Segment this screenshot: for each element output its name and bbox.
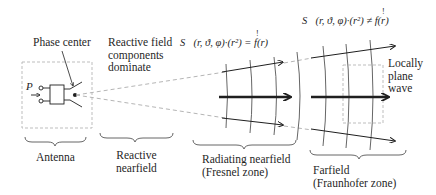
brace-radiating-nearfield bbox=[193, 140, 296, 149]
nearfield-formula: S⃗(r, ϑ, φ)·(r²) = f(r) bbox=[180, 37, 268, 48]
brace-farfield bbox=[310, 150, 406, 159]
farfield-formula: S⃗(r, ϑ, φ)·(r²) ≠ f(r) bbox=[302, 15, 389, 26]
cone-lower-dashed bbox=[76, 95, 225, 118]
cone-upper-dashed bbox=[76, 72, 225, 95]
reactive-components-label: Reactive field components dominate bbox=[108, 36, 172, 74]
region-label-reactive-nearfield: Reactive nearfield bbox=[116, 149, 157, 174]
antenna-body bbox=[50, 85, 64, 104]
locally-plane-wave-label: Locally plane wave bbox=[388, 57, 423, 95]
region-label-antenna: Antenna bbox=[36, 151, 75, 164]
region-label-radiating-nearfield: Radiating nearfield (Fresnel zone) bbox=[202, 153, 290, 178]
farfield-wavefronts bbox=[323, 40, 373, 150]
horn-lower bbox=[64, 100, 82, 107]
brace-reactive-nearfield bbox=[100, 133, 173, 142]
nearfield-formula-mark: ! bbox=[256, 29, 259, 38]
region-label-farfield: Farfield (Fraunhofer zone) bbox=[313, 164, 396, 189]
nearfield-upper-arrow bbox=[222, 62, 283, 72]
antenna-symbol bbox=[31, 82, 82, 107]
phase-center-pointer bbox=[62, 51, 73, 86]
farfield-formula-mark: ! bbox=[382, 7, 385, 16]
port-label: P bbox=[26, 80, 33, 92]
feed-terminal-top bbox=[39, 86, 43, 90]
nearfield-lower-arrow bbox=[222, 118, 283, 125]
brace-antenna bbox=[25, 137, 86, 146]
feed-terminal-bottom bbox=[39, 99, 43, 103]
phase-center-label: Phase center bbox=[33, 36, 91, 49]
